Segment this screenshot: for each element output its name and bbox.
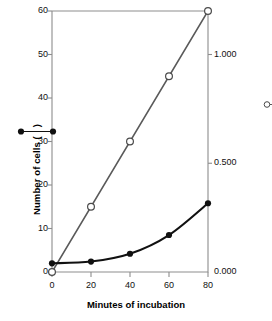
data-point-filled-circle — [49, 260, 55, 266]
y-right-tick-label: 0.000 — [214, 266, 248, 276]
data-point-filled-circle — [127, 251, 133, 257]
y-left-tick-label: 60 — [22, 5, 48, 15]
data-point-open-circle — [49, 269, 56, 276]
x-tick-label: 0 — [39, 280, 65, 290]
data-point-filled-circle — [166, 232, 172, 238]
y-left-tick-label: 0 — [22, 266, 48, 276]
y-left-tick-label: 50 — [22, 49, 48, 59]
series-log10-number-of-cells — [49, 8, 212, 276]
x-axis-title: Minutes of incubation — [0, 299, 272, 310]
y-left-tick-label: 10 — [22, 223, 48, 233]
x-tick-label: 40 — [117, 280, 143, 290]
series-number-of-cells — [49, 200, 211, 266]
x-tick-marks — [52, 272, 208, 277]
data-point-filled-circle — [205, 200, 211, 206]
x-tick-label: 80 — [195, 280, 221, 290]
x-tick-label: 60 — [156, 280, 182, 290]
data-point-filled-circle — [88, 258, 94, 264]
x-tick-label: 20 — [78, 280, 104, 290]
y-left-axis-title-prefix: Number of cells ( — [31, 136, 42, 215]
y-left-tick-label: 20 — [22, 179, 48, 189]
y-left-tick-label: 40 — [22, 92, 48, 102]
data-point-open-circle — [88, 203, 95, 210]
data-point-open-circle — [205, 8, 212, 15]
data-point-open-circle — [166, 73, 173, 80]
figure-container: Number of cells ( ) Log10 number of cell… — [0, 0, 272, 321]
data-point-open-circle — [127, 138, 134, 145]
y-right-tick-marks — [208, 55, 212, 164]
y-left-tick-label: 30 — [22, 136, 48, 146]
open-circle-line-symbol-icon — [262, 100, 272, 109]
y-right-tick-label: 0.500 — [214, 157, 248, 167]
y-right-axis-title: Log10 number of cells ( ) — [262, 97, 272, 215]
y-right-tick-label: 1.000 — [214, 49, 248, 59]
